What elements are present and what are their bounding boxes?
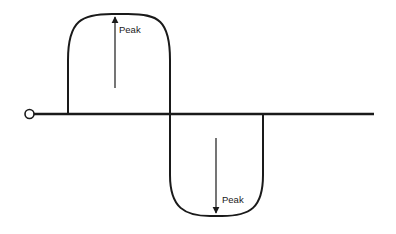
positive-peak-label: Peak — [119, 24, 141, 35]
waveform-diagram: Peak Peak — [0, 0, 396, 234]
origin-terminal — [25, 110, 34, 119]
negative-peak-label: Peak — [222, 194, 244, 205]
